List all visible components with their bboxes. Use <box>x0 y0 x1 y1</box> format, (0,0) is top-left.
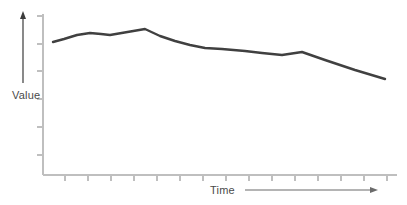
y-axis-label: Value <box>12 89 40 101</box>
chart-figure: Value Time <box>0 0 407 205</box>
value-direction-arrow <box>20 11 26 83</box>
y-axis-ticks <box>37 16 43 155</box>
data-series-line <box>53 29 385 79</box>
line-chart-canvas <box>0 0 407 205</box>
time-direction-arrow <box>245 187 378 193</box>
x-axis-label: Time <box>210 184 235 196</box>
x-axis-ticks <box>65 175 387 181</box>
